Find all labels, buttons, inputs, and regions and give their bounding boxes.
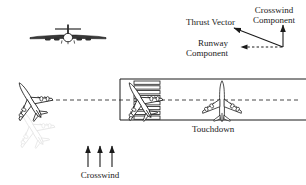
diagram-graphics: [0, 0, 306, 185]
crosswind-component-label-line1: Crosswind: [244, 5, 304, 15]
vector-triangle: [234, 25, 283, 47]
approach-aircraft-shadow: [5, 100, 60, 155]
runway-outline: [120, 79, 306, 120]
thrust-vector-arrow: [234, 28, 283, 47]
thrust-vector-label: Thrust Vector: [186, 17, 235, 27]
crosswind-label: Crosswind: [70, 170, 130, 180]
touchdown-label: Touchdown: [192, 124, 234, 134]
runway-component-label-line1: Runway: [166, 38, 228, 48]
touchdown-aircraft: [203, 81, 242, 122]
crosswind-component-label-line2: Component: [244, 15, 304, 25]
crosswind-landing-diagram: Thrust Vector Crosswind Component Runway…: [0, 0, 306, 185]
crabbed-approach-aircraft: [3, 73, 58, 128]
threshold-aircraft: [113, 73, 168, 128]
runway-component-label-line2: Component: [166, 48, 228, 58]
crosswind-arrows: [88, 146, 112, 167]
front-view-aircraft: [30, 25, 106, 45]
runway-threshold-markings: [134, 81, 160, 119]
